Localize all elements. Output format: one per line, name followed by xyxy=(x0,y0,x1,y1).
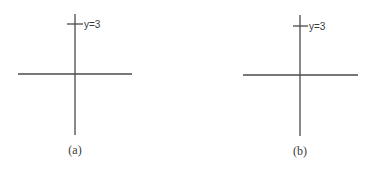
panel-a: y=3 (a) xyxy=(18,14,132,157)
diagram-canvas: y=3 (a) y=3 (b) xyxy=(0,0,377,172)
tick-label: y=3 xyxy=(309,21,326,32)
panel-b: y=3 (b) xyxy=(243,15,358,158)
panel-caption: (a) xyxy=(68,143,81,157)
panel-caption: (b) xyxy=(293,144,307,158)
tick-label: y=3 xyxy=(84,19,101,30)
